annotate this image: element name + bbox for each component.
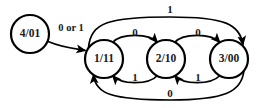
transition-s2-to-s1: 1 <box>113 71 158 83</box>
transition-s1-to-s3-label: 1 <box>167 3 173 15</box>
state-label-1: 1/11 <box>94 52 114 64</box>
transition-s2-to-s3: 0 <box>175 26 221 43</box>
state-node-3[interactable]: 3/00 <box>210 40 248 78</box>
state-node-4[interactable]: 4/01 <box>11 15 49 53</box>
transition-s1-to-s2: 0 <box>113 26 158 43</box>
transition-s3-to-s2-label: 1 <box>195 71 201 83</box>
state-label-4: 4/01 <box>20 27 41 39</box>
state-diagram-canvas: 0 or 1 0 1 0 1 1 0 <box>0 0 278 108</box>
state-label-2: 2/10 <box>156 52 177 64</box>
transition-s2-to-s1-label: 1 <box>132 71 138 83</box>
transition-s3-to-s1-label: 0 <box>167 87 173 99</box>
transition-s3-to-s2: 1 <box>175 71 221 83</box>
state-node-1[interactable]: 1/11 <box>85 40 123 78</box>
transition-s1-to-s2-label: 0 <box>132 26 138 38</box>
transition-s4-to-s1: 0 or 1 <box>48 22 85 50</box>
state-label-3: 3/00 <box>219 52 240 64</box>
state-node-2[interactable]: 2/10 <box>147 40 185 78</box>
transition-s4-to-s1-path <box>48 42 85 51</box>
transition-s2-to-s3-label: 0 <box>195 26 201 38</box>
state-diagram: 0 or 1 0 1 0 1 1 0 <box>0 0 278 108</box>
transition-s4-to-s1-label: 0 or 1 <box>58 22 83 33</box>
